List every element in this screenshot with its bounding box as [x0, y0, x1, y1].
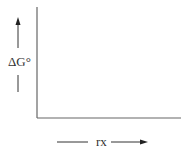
energy-diagram: ΔG° rx — [0, 0, 192, 154]
y-direction-arrow-icon — [16, 17, 21, 48]
diagram-svg — [0, 0, 192, 154]
y-axis-label: ΔG° — [8, 55, 31, 68]
x-direction-arrow-icon — [111, 140, 148, 145]
x-axis-label: rx — [96, 135, 107, 148]
